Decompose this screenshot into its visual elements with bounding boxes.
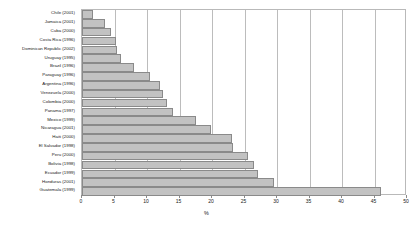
x-tick-label: 0 — [80, 199, 83, 204]
plot-area — [81, 9, 406, 195]
x-tick-label: 50 — [403, 199, 409, 204]
horizontal-bar-chart: Chile (2001)Jamaica (2001)Cuba (2000)Cos… — [0, 0, 413, 229]
category-label: Guatemala (1999) — [40, 188, 75, 192]
x-tick-label: 10 — [143, 199, 149, 204]
bar — [82, 19, 105, 28]
bar-series — [82, 10, 405, 194]
category-label: El Salvador (1998) — [39, 144, 75, 148]
bar — [82, 134, 232, 143]
x-tick-label: 35 — [306, 199, 312, 204]
category-label: Brazil (1996) — [50, 64, 75, 68]
bar-row — [82, 134, 407, 143]
bar — [82, 152, 248, 161]
bar — [82, 37, 116, 46]
category-label: Argentina (1996) — [42, 82, 75, 86]
bar-row — [82, 46, 407, 55]
bar — [82, 187, 381, 196]
bar — [82, 125, 211, 134]
bar-row — [82, 161, 407, 170]
bar — [82, 170, 258, 179]
bar — [82, 72, 150, 81]
bar — [82, 99, 167, 108]
x-tick-label: 40 — [338, 199, 344, 204]
bar — [82, 178, 274, 187]
bar-row — [82, 81, 407, 90]
x-tick-label: 20 — [208, 199, 214, 204]
bar-row — [82, 37, 407, 46]
bar-row — [82, 28, 407, 37]
category-label: Dominican Republic (2002) — [22, 47, 75, 51]
category-axis-labels: Chile (2001)Jamaica (2001)Cuba (2000)Cos… — [0, 9, 78, 195]
bar-row — [82, 90, 407, 99]
x-tick-label: 5 — [112, 199, 115, 204]
bar-row — [82, 19, 407, 28]
category-label: Chile (2001) — [51, 11, 75, 15]
category-label: Peru (2000) — [52, 153, 75, 157]
bar — [82, 46, 117, 55]
bar-row — [82, 187, 407, 196]
bar-row — [82, 178, 407, 187]
bar-row — [82, 10, 407, 19]
category-label: Venezuela (2000) — [41, 91, 75, 95]
bar — [82, 90, 163, 99]
bar — [82, 54, 121, 63]
bar-row — [82, 152, 407, 161]
category-label: Colombia (2000) — [43, 100, 75, 104]
bar — [82, 10, 93, 19]
bar — [82, 116, 196, 125]
bar — [82, 108, 173, 117]
category-label: Bolivia (1998) — [48, 162, 75, 166]
bar-row — [82, 125, 407, 134]
category-label: Panama (1997) — [45, 109, 75, 113]
bar — [82, 161, 254, 170]
category-label: Uruguay (1995) — [44, 56, 75, 60]
bar-row — [82, 116, 407, 125]
bar-row — [82, 72, 407, 81]
bar-row — [82, 170, 407, 179]
category-label: Jamaica (2001) — [45, 20, 75, 24]
category-label: Costa Rica (1996) — [40, 38, 75, 42]
category-label: Honduras (2001) — [42, 180, 75, 184]
x-axis-title: % — [0, 211, 413, 216]
category-label: Haiti (2000) — [52, 135, 75, 139]
category-label: Cuba (2000) — [51, 29, 75, 33]
bar — [82, 28, 111, 37]
category-label: Ecuador (1999) — [45, 171, 75, 175]
bar — [82, 143, 233, 152]
bar-row — [82, 63, 407, 72]
bar-row — [82, 143, 407, 152]
x-tick-label: 45 — [371, 199, 377, 204]
category-label: Mexico (1999) — [47, 118, 75, 122]
x-tick-label: 30 — [273, 199, 279, 204]
x-tick-label: 25 — [241, 199, 247, 204]
category-label: Nicaragua (2001) — [41, 126, 75, 130]
x-tick-label: 15 — [176, 199, 182, 204]
bar-row — [82, 99, 407, 108]
bar — [82, 63, 134, 72]
bar-row — [82, 108, 407, 117]
bar — [82, 81, 160, 90]
bar-row — [82, 54, 407, 63]
category-label: Paraguay (1996) — [42, 73, 75, 77]
